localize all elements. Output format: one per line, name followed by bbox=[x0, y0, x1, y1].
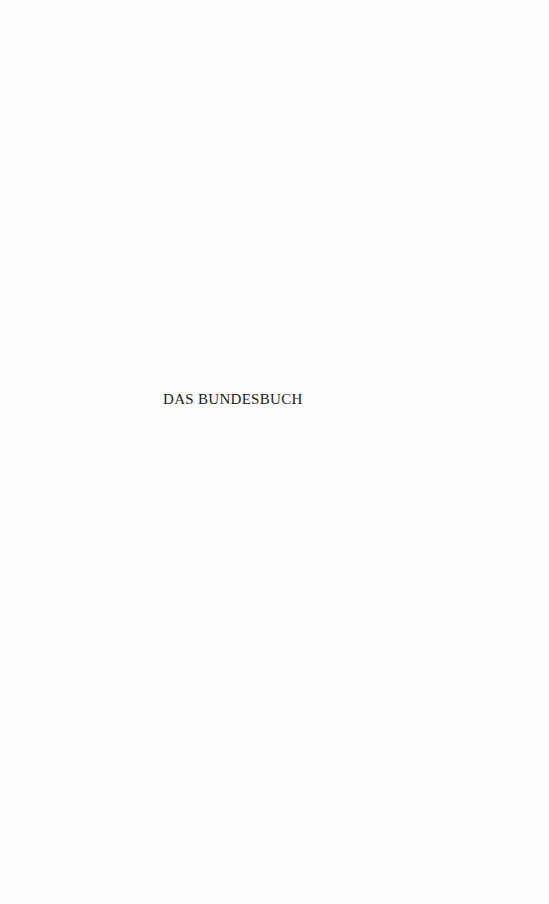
book-page: DAS BUNDESBUCH bbox=[0, 0, 549, 904]
half-title: DAS BUNDESBUCH bbox=[163, 391, 303, 408]
